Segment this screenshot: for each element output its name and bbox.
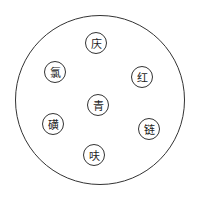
node-lian: 链: [138, 118, 160, 140]
node-qing-top: 庆: [85, 32, 107, 54]
node-huang: 磺: [42, 113, 64, 135]
node-hong: 红: [131, 66, 153, 88]
node-lv: 氯: [44, 61, 66, 83]
node-fu: 呋: [83, 144, 105, 166]
node-qing-center: 青: [87, 94, 109, 116]
